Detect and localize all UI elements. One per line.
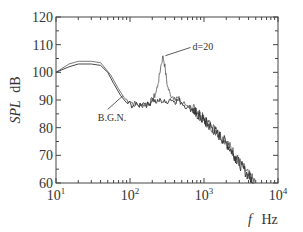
y-axis-label: SPL dB	[8, 76, 23, 123]
series-line-d20	[56, 56, 256, 183]
series-line-bgn	[56, 64, 254, 183]
x-axis-label: f Hz	[248, 212, 278, 227]
plot-frame	[56, 17, 278, 183]
annotation-label-bgn: B.G.N.	[98, 112, 127, 123]
y-tick-label: 90	[39, 93, 53, 108]
y-tick-label: 80	[39, 121, 53, 136]
y-axis-label-symbol: SPL	[8, 100, 23, 124]
y-tick-label: 110	[33, 38, 53, 53]
x-axis-label-symbol: f	[248, 212, 254, 227]
x-tick-label: 101	[47, 186, 66, 203]
y-tick-label: 70	[39, 148, 53, 163]
annotation-leader-line	[108, 96, 123, 110]
x-axis-label-unit: Hz	[261, 212, 277, 227]
y-tick-label: 120	[32, 10, 53, 25]
annotation-leader-line	[165, 47, 190, 55]
x-tick-label: 103	[195, 186, 214, 203]
x-tick-label: 102	[121, 186, 140, 203]
x-tick-label: 104	[269, 186, 288, 203]
annotation-label-d20: d=20	[193, 41, 214, 52]
spl-frequency-chart: 60708090100110120101102103104d=20B.G.N. …	[0, 0, 303, 232]
plot-area: 60708090100110120101102103104d=20B.G.N.	[32, 10, 288, 203]
y-tick-label: 100	[32, 65, 53, 80]
y-axis-label-unit: dB	[8, 76, 23, 92]
